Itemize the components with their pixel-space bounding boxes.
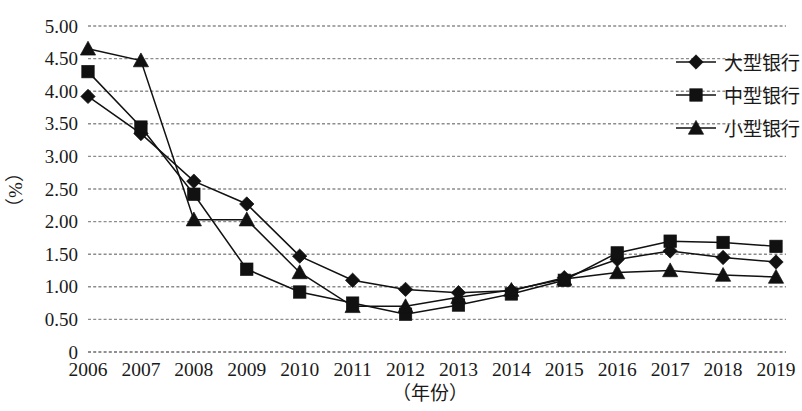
data-point-marker-square [241,263,253,275]
data-point-marker-square [293,286,305,298]
x-tick-label: 2010 [280,359,319,380]
x-tick-label: 2015 [545,359,584,380]
data-point-marker-square [611,247,623,259]
legend-label: 中型银行 [724,86,800,107]
y-tick-label: 5.00 [45,16,78,37]
line-chart: 00.501.001.502.002.503.003.504.004.505.0… [0,0,802,411]
series-markers-group [80,41,783,320]
data-point-marker-square [717,236,729,248]
legend-label: 大型银行 [724,53,800,74]
data-point-marker-diamond [81,89,95,103]
y-tick-label: 4.50 [45,48,78,69]
legend-label: 小型银行 [724,119,800,140]
x-tick-label: 2007 [121,359,160,380]
x-tick-label: 2017 [651,359,690,380]
data-point-marker-square [135,121,147,133]
data-point-marker-square [664,235,676,247]
y-tick-label: 4.00 [45,81,78,102]
x-tick-label: 2014 [492,359,531,380]
x-tick-label: 2008 [174,359,213,380]
data-point-marker-diamond [716,250,730,264]
x-tick-label: 2018 [704,359,743,380]
x-tick-label: 2013 [439,359,478,380]
x-axis-tick-labels: 2006200720082009201020112012201320142015… [69,359,796,380]
x-axis-title: （年份） [392,383,468,404]
y-tick-label: 1.00 [45,276,78,297]
y-tick-label: 1.50 [45,244,78,265]
data-point-marker-diamond [769,255,783,269]
x-tick-label: 2009 [227,359,266,380]
y-axis-tick-labels: 00.501.001.502.002.503.003.504.004.505.0… [45,16,78,363]
x-tick-label: 2011 [333,359,371,380]
legend-marker-diamond [689,55,703,69]
x-tick-label: 2016 [598,359,637,380]
legend-marker-square [690,89,702,101]
data-point-marker-square [82,65,94,77]
y-tick-label: 3.50 [45,113,78,134]
data-point-marker-triangle [80,41,95,55]
y-axis-title: （%） [5,163,26,217]
data-point-marker-diamond [345,273,359,287]
data-point-marker-square [770,240,782,252]
x-tick-label: 2012 [386,359,425,380]
data-point-marker-square [188,188,200,200]
chart-figure: 00.501.001.502.002.503.003.504.004.505.0… [0,0,802,411]
y-tick-label: 0.50 [45,309,78,330]
y-tick-label: 3.00 [45,146,78,167]
chart-legend: 大型银行中型银行小型银行 [676,53,800,140]
x-tick-label: 2019 [757,359,796,380]
data-point-marker-triangle [663,263,678,277]
y-tick-label: 2.50 [45,179,78,200]
data-point-marker-diamond [398,282,412,296]
x-tick-label: 2006 [69,359,108,380]
y-tick-label: 2.00 [45,211,78,232]
